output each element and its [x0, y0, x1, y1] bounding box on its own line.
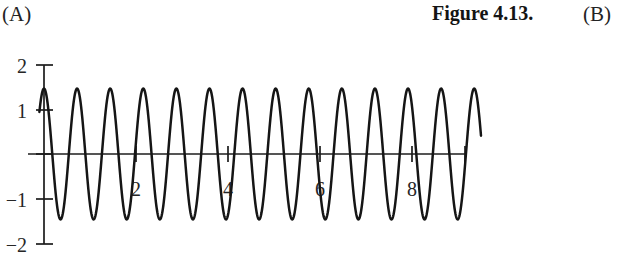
oscillation-plot: 2 1 −1 −2 2 4 6 8: [0, 40, 500, 264]
panel-label-a: (A): [2, 2, 31, 27]
y-tick-label-neg1: −1: [6, 189, 27, 211]
figure-page: (A) Figure 4.13. (B): [0, 0, 625, 264]
panel-label-b: (B): [583, 2, 611, 27]
y-tick-label-neg2: −2: [6, 234, 27, 256]
plot-svg: 2 1 −1 −2 2 4 6 8: [0, 40, 500, 264]
y-tick-label-1: 1: [17, 100, 27, 122]
y-tick-label-2: 2: [17, 55, 27, 77]
x-tick-label-8: 8: [407, 178, 417, 200]
figure-caption: Figure 4.13.: [432, 2, 533, 25]
